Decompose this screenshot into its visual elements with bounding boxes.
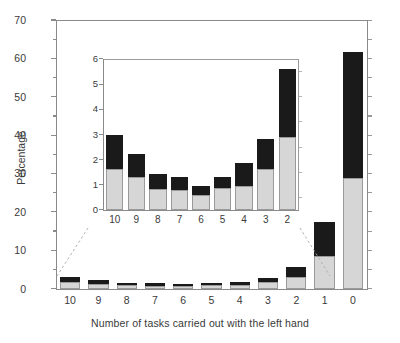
y-tick-major — [51, 173, 56, 174]
x-tick-label: 0 — [350, 294, 356, 306]
bar-inset — [171, 177, 188, 210]
bar-segment-upper — [117, 283, 137, 285]
x-tick-label: 6 — [180, 294, 186, 306]
y-tick-right — [368, 250, 372, 251]
inset-x-tick-label: 6 — [198, 214, 204, 225]
inset-y-tick-minor — [299, 71, 302, 72]
bar-segment-upper — [314, 222, 334, 256]
inset-right-axis-line — [298, 59, 299, 211]
inset-bar-segment-lower — [149, 189, 166, 210]
bar-main — [314, 222, 334, 289]
bar-segment-lower — [314, 256, 334, 289]
inset-y-axis-line — [103, 59, 104, 211]
bar-inset — [106, 135, 123, 210]
bar-segment-lower — [258, 282, 278, 288]
inset-y-tick — [99, 109, 103, 110]
inset-bar-segment-upper — [235, 163, 252, 185]
bar-segment-upper — [258, 278, 278, 283]
inset-x-tick-label: 7 — [177, 214, 183, 225]
inset-y-tick-label: 3 — [78, 130, 98, 140]
y-tick-label: 0 — [0, 283, 26, 294]
y-tick-right — [368, 192, 372, 193]
y-tick-label: 20 — [0, 207, 26, 218]
bar-main — [343, 52, 363, 289]
inset-y-tick-label: 2 — [78, 155, 98, 165]
inset-bar-segment-lower — [171, 190, 188, 210]
x-tick-label: 8 — [124, 294, 130, 306]
inset-x-tick-label: 4 — [241, 214, 247, 225]
inset-bar-segment-lower — [106, 169, 123, 210]
inset-top-line — [103, 59, 299, 60]
bar-main — [258, 278, 278, 289]
bar-segment-upper — [230, 282, 250, 285]
inset-x-tick-label: 9 — [134, 214, 140, 225]
bar-inset — [214, 177, 231, 210]
bar-segment-lower — [173, 286, 193, 288]
bar-segment-lower — [60, 282, 80, 288]
inset-bar-segment-upper — [257, 139, 274, 170]
inset-bar-segment-lower — [214, 188, 231, 210]
inset-y-tick — [99, 134, 103, 135]
x-tick-label: 4 — [237, 294, 243, 306]
inset-y-tick-label: 5 — [78, 79, 98, 89]
inset-bar-segment-upper — [279, 69, 296, 137]
bar-segment-upper — [343, 52, 363, 178]
bar-segment-lower — [201, 285, 221, 288]
bar-segment-lower — [88, 284, 108, 289]
y-tick-right — [368, 288, 372, 289]
x-tick-label: 10 — [64, 294, 76, 306]
inset-bar-segment-lower — [235, 186, 252, 210]
bar-inset — [257, 139, 274, 210]
main-x-axis-line — [56, 289, 368, 290]
y-tick-right — [368, 58, 372, 59]
inset-bar-segment-upper — [214, 177, 231, 188]
inset-y-tick-label: 1 — [78, 180, 98, 190]
inset-x-tick-label: 3 — [263, 214, 269, 225]
inset-bar-segment-lower — [128, 177, 145, 210]
inset-y-tick-label: 6 — [78, 54, 98, 64]
inset-y-tick-minor — [299, 147, 302, 148]
inset-y-tick-minor — [299, 96, 302, 97]
y-tick-minor — [53, 77, 57, 78]
y-tick-right — [368, 173, 372, 174]
y-tick-right — [368, 231, 372, 232]
inset-bar-segment-upper — [128, 154, 145, 177]
y-tick-label: 40 — [0, 130, 26, 141]
inset-x-tick-label: 5 — [220, 214, 226, 225]
x-tick-label: 3 — [265, 294, 271, 306]
inset-bar-segment-lower — [257, 169, 274, 210]
y-tick-major — [51, 135, 56, 136]
y-tick-minor — [53, 269, 57, 270]
inset-bar-segment-upper — [171, 177, 188, 191]
bar-inset — [192, 186, 209, 210]
x-tick-label: 7 — [152, 294, 158, 306]
y-tick-right — [368, 77, 372, 78]
y-tick-minor — [53, 230, 57, 231]
inset-y-tick — [99, 58, 103, 59]
inset-x-tick-label: 8 — [155, 214, 161, 225]
inset-x-axis-line — [103, 210, 299, 211]
y-tick-label: 70 — [0, 15, 26, 26]
bar-segment-upper — [286, 267, 306, 277]
bar-inset — [128, 154, 145, 210]
y-tick-major — [51, 96, 56, 97]
inset-magnified-chart: 0123456 1098765432 — [88, 56, 300, 228]
bar-main — [173, 285, 193, 289]
bar-main — [60, 277, 80, 288]
y-tick-label: 30 — [0, 168, 26, 179]
bar-main — [117, 283, 137, 289]
y-tick-right — [368, 135, 372, 136]
bar-main — [145, 283, 165, 288]
bar-inset — [149, 174, 166, 210]
x-axis-title: Number of tasks carried out with the lef… — [0, 317, 400, 329]
inset-x-tick-label: 10 — [109, 214, 120, 225]
y-tick-label: 10 — [0, 245, 26, 256]
inset-x-tick-label: 2 — [284, 214, 290, 225]
y-tick-minor — [53, 115, 57, 116]
y-tick-right — [368, 20, 372, 21]
bar-main — [201, 284, 221, 289]
bar-main — [88, 280, 108, 289]
y-tick-right — [368, 39, 372, 40]
inset-y-tick-label: 4 — [78, 105, 98, 115]
x-tick-label: 1 — [322, 294, 328, 306]
